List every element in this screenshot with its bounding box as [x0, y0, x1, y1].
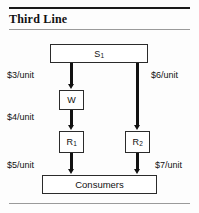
arrow-head-icon — [68, 169, 74, 174]
retailer-2-node-label: R — [132, 137, 139, 147]
consumers-node-label: Consumers — [75, 179, 124, 190]
cost-label-supplier-to-retailer-2: $6/unit — [151, 70, 178, 80]
page-title: Third Line — [9, 11, 67, 27]
supplier-node: S1 — [50, 44, 148, 63]
retailer-1-node-label: R — [66, 137, 73, 147]
arrow-shaft — [70, 63, 73, 85]
arrow-shaft — [70, 110, 73, 126]
cost-label-retailer-2-to-consumers: $7/unit — [155, 160, 182, 170]
retailer-1-node: R1 — [59, 131, 84, 153]
retailer-2-node: R2 — [125, 131, 150, 153]
arrow-head-icon — [134, 125, 140, 130]
consumers-node: Consumers — [42, 175, 157, 194]
cost-label-warehouse-to-retailer-1: $4/unit — [7, 112, 34, 122]
arrow-head-icon — [68, 84, 74, 89]
warehouse-node: W — [59, 90, 84, 110]
arrow-shaft — [70, 153, 73, 170]
figure-container: Third Line S1 W R1 R2 Consumers $3/unit … — [0, 0, 199, 213]
title-underline-rule — [9, 29, 190, 30]
cost-label-supplier-to-warehouse: $3/unit — [7, 70, 34, 80]
supplier-node-label: S — [94, 49, 100, 59]
arrow-shaft — [136, 153, 139, 170]
cost-label-retailer-1-to-consumers: $5/unit — [7, 160, 34, 170]
arrow-head-icon — [68, 125, 74, 130]
top-rule — [9, 7, 190, 9]
warehouse-node-label: W — [67, 95, 76, 105]
arrow-head-icon — [134, 169, 140, 174]
bottom-rule — [9, 203, 190, 204]
arrow-shaft — [136, 63, 139, 126]
